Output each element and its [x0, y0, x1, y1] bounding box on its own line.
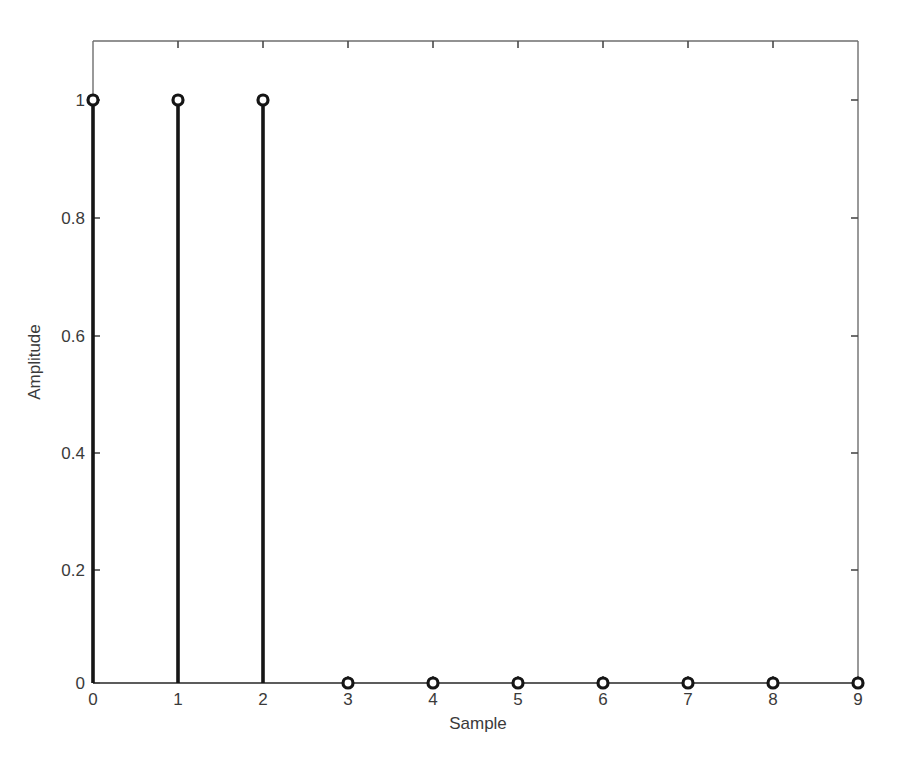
stem-marker-0: [88, 95, 98, 105]
x-tick-label-8: 8: [768, 690, 777, 709]
y-tick-labels: 0 0.2 0.4 0.6 0.8 1: [61, 91, 85, 693]
stem-marker-3: [343, 678, 353, 688]
x-tick-label-2: 2: [258, 690, 267, 709]
y-tick-label-1: 0.2: [61, 561, 85, 580]
x-tick-label-7: 7: [683, 690, 692, 709]
stem-marker-7: [683, 678, 693, 688]
x-tick-label-5: 5: [513, 690, 522, 709]
x-tick-label-6: 6: [598, 690, 607, 709]
stem-marker-1: [173, 95, 183, 105]
stem-plot-chart: 0 0.2 0.4 0.6 0.8 1 0 1 2 3 4 5 6 7 8 9 …: [0, 0, 898, 766]
x-tick-label-3: 3: [343, 690, 352, 709]
x-tick-label-1: 1: [173, 690, 182, 709]
x-axis-title: Sample: [449, 714, 507, 733]
figure-canvas: 0 0.2 0.4 0.6 0.8 1 0 1 2 3 4 5 6 7 8 9 …: [0, 0, 898, 766]
y-tick-label-2: 0.4: [61, 444, 85, 463]
stem-marker-5: [513, 678, 523, 688]
x-tick-label-0: 0: [88, 690, 97, 709]
stem-marker-8: [768, 678, 778, 688]
x-tick-label-9: 9: [853, 690, 862, 709]
stem-marker-4: [428, 678, 438, 688]
stem-marker-2: [258, 95, 268, 105]
plot-area-background: [93, 41, 858, 683]
stem-marker-6: [598, 678, 608, 688]
y-tick-label-0: 0: [76, 674, 85, 693]
y-tick-label-5: 1: [76, 91, 85, 110]
y-axis-title: Amplitude: [25, 324, 44, 400]
stem-marker-9: [853, 678, 863, 688]
y-tick-label-4: 0.8: [61, 209, 85, 228]
x-tick-labels: 0 1 2 3 4 5 6 7 8 9: [88, 690, 862, 709]
x-tick-label-4: 4: [428, 690, 437, 709]
y-tick-label-3: 0.6: [61, 327, 85, 346]
